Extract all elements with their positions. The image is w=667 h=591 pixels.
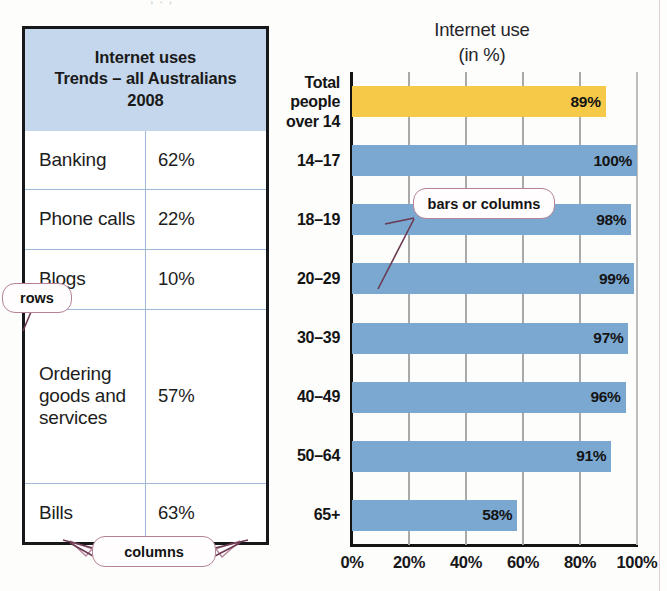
category-label: 50–64 [220,447,340,467]
chart-subtitle: (in %) [352,43,612,68]
gridline [465,72,467,545]
bar: 100% [352,145,637,176]
row-label: Bills [25,483,146,542]
row-label: Phone calls [25,190,146,250]
cropped-top-text: , . ; [150,0,570,5]
callout-bars: bars or columns [413,188,555,219]
callout-rows: rows [2,283,72,313]
bar-value-label: 99% [599,270,634,288]
bar: 89% [352,86,606,117]
callout-rows-label: rows [20,290,54,306]
x-axis-tick-label: 80% [564,553,596,572]
category-label: 20–29 [220,269,340,289]
bar: 97% [352,323,628,354]
row-label: Ordering goods and services [25,309,146,483]
gridline [408,72,410,545]
bar: 99% [352,263,634,294]
callout-bars-label: bars or columns [428,196,541,212]
y-axis-line [350,72,353,545]
x-axis-tick-label: 20% [393,553,425,572]
row-label: Banking [25,131,146,190]
bar-value-label: 100% [594,152,637,170]
bar-value-label: 97% [593,329,628,347]
gridline [579,72,581,545]
bar-value-label: 98% [596,211,631,229]
bar-value-label: 91% [576,447,611,465]
category-label: 40–49 [220,387,340,407]
table-title-line-1: Internet uses [33,47,258,68]
gridline [636,72,638,545]
bar-value-label: 58% [482,506,517,524]
bar: 96% [352,382,626,413]
callout-columns: columns [92,536,216,567]
category-label: Total people over 14 [220,72,340,131]
x-axis-tick-label: 0% [340,553,363,572]
bar-value-label: 96% [590,388,625,406]
x-axis-tick-label: 100% [616,553,657,572]
category-label: 65+ [220,506,340,526]
category-label: 30–39 [220,328,340,348]
callout-columns-label: columns [124,544,184,560]
x-axis-tick-label: 40% [450,553,482,572]
category-label: 18–19 [220,210,340,230]
internet-use-bar-chart: Internet use (in %) 0%20%40%60%80%100%89… [290,10,667,591]
gridline [522,72,524,545]
category-label: 14–17 [220,151,340,171]
figure-canvas: , . ; Internet uses Trends – all Austral… [0,0,667,591]
plot-area: 0%20%40%60%80%100%89%Total people over 1… [352,72,637,545]
chart-title-main: Internet use [352,18,612,43]
bar: 91% [352,441,611,472]
bar-value-label: 89% [571,93,606,111]
x-axis-line [350,544,638,547]
bar: 58% [352,500,517,531]
chart-title: Internet use (in %) [352,18,612,67]
x-axis-tick-label: 60% [507,553,539,572]
